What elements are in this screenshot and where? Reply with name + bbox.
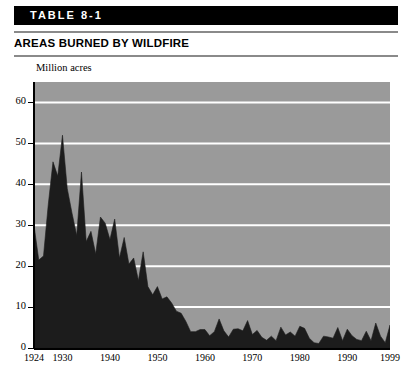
page-title: AREAS BURNED BY WILDFIRE <box>14 37 189 49</box>
y-axis-line <box>33 82 35 349</box>
series-area-wildfire <box>34 135 390 348</box>
y-tick-mark <box>28 184 33 185</box>
plot-area <box>34 82 390 348</box>
x-tick-label: 1940 <box>90 352 130 363</box>
wildfire-area-chart <box>34 82 390 348</box>
rule-below-title <box>14 55 398 57</box>
y-tick-label: 50 <box>4 136 26 147</box>
y-axis-label: Million acres <box>36 62 92 73</box>
x-tick-label: 1950 <box>137 352 177 363</box>
table-number-label: TABLE 8-1 <box>30 10 103 21</box>
y-tick-mark <box>28 266 33 267</box>
y-tick-label: 30 <box>4 218 26 229</box>
y-tick-label: 20 <box>4 259 26 270</box>
y-tick-label: 10 <box>4 300 26 311</box>
y-tick-mark <box>28 102 33 103</box>
x-axis-line <box>34 348 390 350</box>
table-number-band: TABLE 8-1 <box>14 6 398 25</box>
x-tick-label: 1980 <box>280 352 320 363</box>
rule-above-title <box>14 31 398 33</box>
y-tick-label: 60 <box>4 95 26 106</box>
y-tick-mark <box>28 307 33 308</box>
x-tick-label: 1999 <box>370 352 410 363</box>
y-tick-mark <box>28 143 33 144</box>
x-tick-label: 1960 <box>185 352 225 363</box>
y-tick-label: 40 <box>4 177 26 188</box>
x-tick-label: 1990 <box>327 352 367 363</box>
chart-page: TABLE 8-1 AREAS BURNED BY WILDFIRE Milli… <box>0 0 412 377</box>
y-tick-mark <box>28 348 33 349</box>
x-tick-label: 1930 <box>42 352 82 363</box>
y-tick-label: 0 <box>4 341 26 352</box>
y-tick-mark <box>28 225 33 226</box>
x-tick-label: 1970 <box>232 352 272 363</box>
